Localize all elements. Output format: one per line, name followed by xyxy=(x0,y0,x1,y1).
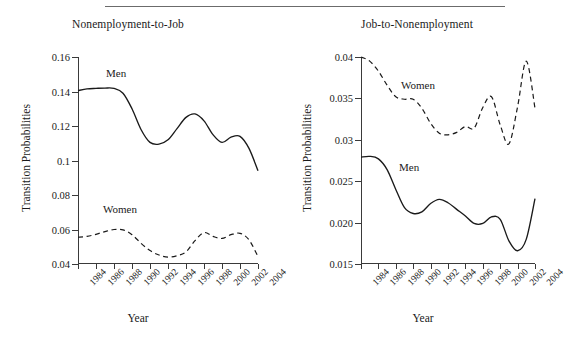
y-tick-label-right-5: 0.015 xyxy=(329,259,353,270)
x-tick-label-right-2: 1988 xyxy=(405,267,426,288)
x-tick-label-left-9: 2002 xyxy=(250,267,271,288)
x-tick-right-3 xyxy=(413,264,414,269)
x-tick-right-6 xyxy=(465,264,466,269)
x-axis-label-left: Year xyxy=(2,312,274,324)
x-tick-right-10 xyxy=(535,264,536,269)
y-tick-label-left-6: 0.04 xyxy=(52,259,70,270)
x-tick-left-8 xyxy=(222,264,223,269)
plot-area-left: Men Women 0.160.140.120.10.080.060.04198… xyxy=(78,57,258,264)
y-tick-right-2 xyxy=(355,140,361,141)
y-tick-left-1 xyxy=(72,92,78,93)
x-tick-left-7 xyxy=(204,264,205,269)
y-tick-label-right-3: 0.025 xyxy=(329,176,353,187)
y-tick-right-1 xyxy=(355,98,361,99)
x-tick-label-left-1: 1986 xyxy=(106,267,127,288)
x-tick-right-2 xyxy=(396,264,397,269)
x-tick-label-right-1: 1986 xyxy=(388,267,409,288)
x-tick-right-9 xyxy=(518,264,519,269)
series-line-right-men xyxy=(361,156,535,250)
curves-left xyxy=(78,57,258,264)
x-tick-label-left-2: 1988 xyxy=(124,267,145,288)
panel-job-to-nonemployment: Job-to-Nonemployment Transition Probabil… xyxy=(273,0,545,339)
x-tick-left-5 xyxy=(168,264,169,269)
x-tick-right-8 xyxy=(500,264,501,269)
y-tick-label-right-2: 0.03 xyxy=(335,134,353,145)
series-label-men-left: Men xyxy=(106,67,126,79)
x-tick-label-left-5: 1994 xyxy=(178,267,199,288)
x-tick-label-right-4: 1992 xyxy=(440,267,461,288)
x-tick-label-right-6: 1996 xyxy=(475,267,496,288)
series-label-women-right: Women xyxy=(401,79,435,91)
x-tick-label-right-0: 1984 xyxy=(371,267,392,288)
x-tick-label-left-7: 1998 xyxy=(214,267,235,288)
y-axis-label-left: Transition Probabilities xyxy=(20,68,38,248)
y-tick-label-left-2: 0.12 xyxy=(52,121,70,132)
y-tick-right-4 xyxy=(355,223,361,224)
series-line-left-women xyxy=(78,229,258,257)
x-tick-label-left-8: 2000 xyxy=(232,267,253,288)
panel-title-right: Job-to-Nonemployment xyxy=(281,18,553,30)
y-tick-right-0 xyxy=(355,57,361,58)
y-tick-left-3 xyxy=(72,161,78,162)
y-tick-label-left-1: 0.14 xyxy=(52,86,70,97)
series-label-women-left: Women xyxy=(103,203,137,215)
y-tick-label-left-3: 0.1 xyxy=(57,155,70,166)
x-tick-left-1 xyxy=(96,264,97,269)
x-tick-right-4 xyxy=(431,264,432,269)
y-tick-right-3 xyxy=(355,181,361,182)
series-label-men-right: Men xyxy=(399,161,419,173)
x-tick-right-5 xyxy=(448,264,449,269)
x-tick-right-0 xyxy=(361,264,362,269)
x-tick-label-left-6: 1996 xyxy=(196,267,217,288)
panel-nonemployment-to-job: Nonemployment-to-Job Transition Probabil… xyxy=(0,0,272,339)
y-tick-label-right-1: 0.035 xyxy=(329,93,353,104)
x-tick-left-10 xyxy=(258,264,259,269)
x-tick-label-right-9: 2002 xyxy=(527,267,548,288)
x-tick-label-right-8: 2000 xyxy=(510,267,531,288)
x-tick-right-7 xyxy=(483,264,484,269)
x-tick-label-right-3: 1990 xyxy=(423,267,444,288)
x-axis-label-right: Year xyxy=(287,312,559,324)
plot-area-right: Women Men 0.040.0350.030.0250.0200.01519… xyxy=(361,57,535,264)
y-tick-label-right-0: 0.04 xyxy=(335,52,353,63)
x-tick-left-6 xyxy=(186,264,187,269)
x-tick-left-3 xyxy=(132,264,133,269)
y-tick-left-4 xyxy=(72,195,78,196)
y-tick-left-5 xyxy=(72,230,78,231)
x-tick-left-0 xyxy=(78,264,79,269)
y-tick-label-right-4: 0.020 xyxy=(329,217,353,228)
x-tick-label-left-0: 1984 xyxy=(88,267,109,288)
x-tick-label-left-3: 1990 xyxy=(142,267,163,288)
x-tick-label-right-10: 2004 xyxy=(545,267,565,288)
curves-right xyxy=(361,57,535,264)
x-tick-left-9 xyxy=(240,264,241,269)
y-axis-label-right: Transition Probabilities xyxy=(301,68,319,248)
y-tick-left-0 xyxy=(72,57,78,58)
x-tick-left-4 xyxy=(150,264,151,269)
y-tick-left-2 xyxy=(72,126,78,127)
x-tick-label-right-5: 1994 xyxy=(458,267,479,288)
series-line-right-women xyxy=(361,57,535,144)
x-tick-left-2 xyxy=(114,264,115,269)
x-tick-right-1 xyxy=(378,264,379,269)
x-tick-label-right-7: 1998 xyxy=(492,267,513,288)
y-tick-label-left-5: 0.06 xyxy=(52,224,70,235)
y-tick-label-left-4: 0.08 xyxy=(52,190,70,201)
panel-title-left: Nonemployment-to-Job xyxy=(0,18,264,30)
series-line-left-men xyxy=(78,88,258,171)
y-tick-label-left-0: 0.16 xyxy=(52,52,70,63)
x-tick-label-left-4: 1992 xyxy=(160,267,181,288)
